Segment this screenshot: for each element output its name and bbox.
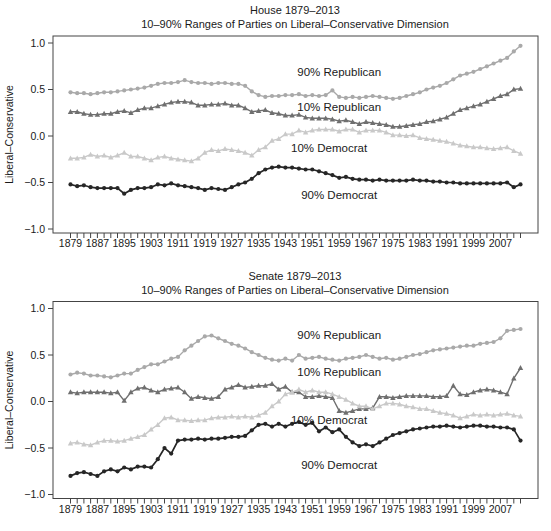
series-10-republican bbox=[68, 365, 523, 415]
senate-1879-2013-plot: Senate 1879–201310–90% Ranges of Parties… bbox=[0, 265, 551, 531]
x-tick-label: 1991 bbox=[435, 503, 459, 515]
series-90-democrat bbox=[68, 420, 522, 478]
data-point-marker bbox=[196, 186, 200, 190]
data-point-marker bbox=[498, 336, 502, 340]
data-point-marker bbox=[216, 81, 220, 85]
data-point-marker bbox=[458, 345, 462, 349]
data-point-marker bbox=[203, 81, 207, 85]
data-point-marker bbox=[357, 178, 361, 182]
data-point-marker bbox=[189, 438, 193, 442]
series-label-90-democrat: 90% Democrat bbox=[301, 459, 378, 471]
data-point-marker bbox=[337, 359, 341, 363]
house-chart: House 1879–201310–90% Ranges of Parties … bbox=[0, 0, 551, 265]
data-point-marker bbox=[209, 186, 213, 190]
data-point-marker bbox=[384, 179, 388, 183]
data-point-marker bbox=[183, 78, 187, 82]
data-point-marker bbox=[297, 167, 301, 171]
data-point-marker bbox=[277, 165, 281, 169]
data-point-marker bbox=[297, 92, 301, 96]
data-point-marker bbox=[438, 84, 442, 88]
y-tick-label: 0.5 bbox=[30, 83, 45, 95]
data-point-marker bbox=[223, 188, 227, 192]
data-point-marker bbox=[250, 350, 254, 354]
data-point-marker bbox=[236, 344, 240, 348]
data-point-marker bbox=[189, 80, 193, 84]
data-point-marker bbox=[351, 440, 355, 444]
x-tick-label: 1951 bbox=[301, 503, 325, 515]
data-point-marker bbox=[209, 333, 213, 337]
x-tick-label: 1935 bbox=[247, 237, 271, 249]
data-point-marker bbox=[223, 81, 227, 85]
data-point-marker bbox=[189, 185, 193, 189]
data-point-marker bbox=[109, 375, 113, 379]
data-point-marker bbox=[109, 90, 113, 94]
data-point-marker bbox=[518, 44, 522, 48]
data-point-marker bbox=[330, 173, 334, 177]
data-point-marker bbox=[330, 358, 334, 362]
series-label-90-republican: 90% Republican bbox=[297, 329, 381, 341]
data-point-marker bbox=[243, 84, 247, 88]
data-point-marker bbox=[257, 93, 261, 97]
data-point-marker bbox=[317, 169, 321, 173]
data-point-marker bbox=[162, 446, 166, 450]
data-point-marker bbox=[411, 178, 415, 182]
data-point-marker bbox=[330, 430, 334, 434]
data-point-marker bbox=[391, 358, 395, 362]
data-point-marker bbox=[283, 384, 288, 389]
y-tick-label: 0.5 bbox=[30, 349, 45, 361]
x-tick-label: 1991 bbox=[435, 237, 459, 249]
data-point-marker bbox=[377, 440, 381, 444]
data-point-marker bbox=[384, 356, 388, 360]
data-point-marker bbox=[398, 431, 402, 435]
data-point-marker bbox=[505, 329, 509, 333]
data-point-marker bbox=[377, 178, 381, 182]
data-point-marker bbox=[411, 427, 415, 431]
data-point-marker bbox=[269, 381, 274, 386]
data-point-marker bbox=[68, 90, 72, 94]
series-90-democrat bbox=[68, 165, 522, 196]
data-point-marker bbox=[357, 444, 361, 448]
data-point-marker bbox=[82, 183, 86, 187]
x-tick-label: 1927 bbox=[220, 503, 244, 515]
data-point-marker bbox=[75, 371, 79, 375]
data-point-marker bbox=[344, 435, 348, 439]
x-tick-label: 1903 bbox=[139, 503, 163, 515]
data-point-marker bbox=[156, 457, 160, 461]
data-point-marker bbox=[250, 89, 254, 93]
data-point-marker bbox=[478, 181, 482, 185]
data-point-marker bbox=[270, 358, 274, 362]
data-point-marker bbox=[176, 355, 180, 359]
data-point-marker bbox=[391, 179, 395, 183]
data-point-marker bbox=[445, 346, 449, 350]
y-axis-label: Liberal–Conservative bbox=[3, 85, 15, 184]
data-point-marker bbox=[250, 428, 254, 432]
x-tick-label: 1943 bbox=[274, 237, 298, 249]
data-point-marker bbox=[277, 94, 281, 98]
data-point-marker bbox=[156, 82, 160, 86]
data-point-marker bbox=[283, 93, 287, 97]
data-point-marker bbox=[263, 422, 267, 426]
data-point-marker bbox=[223, 436, 227, 440]
data-point-marker bbox=[95, 91, 99, 95]
data-point-marker bbox=[357, 96, 361, 100]
data-point-marker bbox=[304, 94, 308, 98]
x-tick-label: 1919 bbox=[193, 503, 217, 515]
data-point-marker bbox=[122, 88, 126, 92]
data-point-marker bbox=[411, 353, 415, 357]
data-point-marker bbox=[277, 359, 281, 363]
data-point-marker bbox=[485, 181, 489, 185]
y-tick-label: −0.5 bbox=[24, 442, 45, 454]
data-point-marker bbox=[290, 359, 294, 363]
x-tick-label: 1927 bbox=[220, 237, 244, 249]
data-point-marker bbox=[317, 429, 321, 433]
data-point-marker bbox=[451, 425, 455, 429]
data-point-marker bbox=[492, 425, 496, 429]
data-point-marker bbox=[169, 81, 173, 85]
data-point-marker bbox=[297, 353, 301, 357]
data-point-marker bbox=[478, 67, 482, 71]
data-point-marker bbox=[216, 336, 220, 340]
data-point-marker bbox=[505, 56, 509, 60]
data-point-marker bbox=[458, 73, 462, 77]
data-point-marker bbox=[236, 82, 240, 86]
data-point-marker bbox=[75, 91, 79, 95]
